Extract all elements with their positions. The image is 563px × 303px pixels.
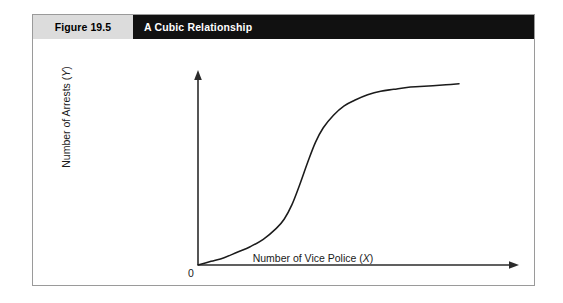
origin-label: 0	[188, 267, 194, 279]
figure-title-label: A Cubic Relationship	[144, 21, 252, 33]
plot-canvas	[33, 39, 534, 285]
figure-number-cell: Figure 19.5	[33, 15, 133, 39]
figure-title-bar: A Cubic Relationship	[133, 15, 534, 39]
x-axis-variable: X	[363, 252, 370, 264]
y-axis	[194, 70, 202, 265]
y-axis-arrowhead-icon	[194, 70, 202, 80]
plot-area: Number of Arrests (Y) Number of Vice Pol…	[33, 39, 534, 285]
figure-box: Figure 19.5 A Cubic Relationship Number …	[32, 14, 535, 286]
y-axis-title-prefix: Number of Arrests (	[60, 77, 72, 168]
y-axis-variable: Y	[60, 70, 72, 77]
cubic-relationship-curve	[198, 84, 459, 265]
y-axis-title-suffix: )	[60, 66, 72, 70]
x-axis-arrowhead-icon	[509, 261, 519, 269]
y-axis-title: Number of Arrests (Y)	[60, 32, 72, 202]
x-axis-title-suffix: )	[370, 252, 374, 264]
x-axis-title: Number of Vice Police (X)	[203, 252, 423, 264]
x-axis-title-prefix: Number of Vice Police (	[253, 252, 363, 264]
figure-header: Figure 19.5 A Cubic Relationship	[33, 15, 534, 39]
